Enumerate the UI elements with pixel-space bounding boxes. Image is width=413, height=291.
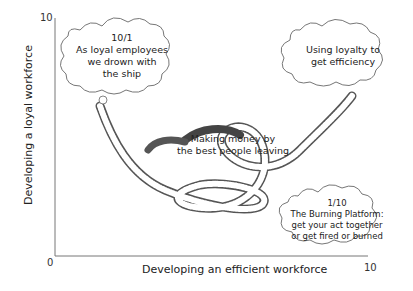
bubble-bottom-right-line: or get fired or burned	[282, 231, 392, 242]
bubble-top-left-line: As loyal employees	[70, 44, 174, 56]
center-label-line: the best people leaving	[168, 145, 298, 157]
y-max-tick: 10	[40, 12, 53, 23]
bubble-bottom-right-line: The Burning Platform:	[282, 209, 392, 220]
bubble-top-left-line: the ship	[70, 68, 174, 80]
y-axis-label: Developing a loyal workforce	[22, 45, 35, 205]
bubble-bottom-right-line: 1/10	[282, 198, 392, 209]
bubble-top-right-text: Using loyalty to get efficiency	[290, 44, 396, 68]
bubble-top-right-line: get efficiency	[290, 56, 396, 68]
center-label: Making money by the best people leaving	[168, 133, 298, 157]
bubble-top-left-line: we drown with	[70, 56, 174, 68]
bubble-top-left-text: 10/1 As loyal employees we drown with th…	[70, 32, 174, 80]
center-label-line: Making money by	[168, 133, 298, 145]
bubble-top-left-line: 10/1	[70, 32, 174, 44]
bubble-bottom-right-text: 1/10 The Burning Platform: get your act …	[282, 198, 392, 242]
x-max-tick: 10	[364, 262, 377, 273]
x-axis-label: Developing an efficient workforce	[142, 263, 327, 276]
bubble-bottom-right-line: get your act together	[282, 220, 392, 231]
bubble-top-right-line: Using loyalty to	[290, 44, 396, 56]
origin-tick: 0	[47, 257, 53, 268]
